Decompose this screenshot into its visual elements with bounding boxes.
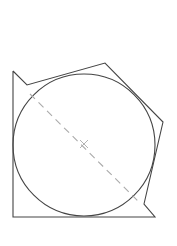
inscribed-circle xyxy=(13,74,155,216)
dashed-diameter xyxy=(30,94,140,203)
geometry-diagram xyxy=(0,0,177,246)
